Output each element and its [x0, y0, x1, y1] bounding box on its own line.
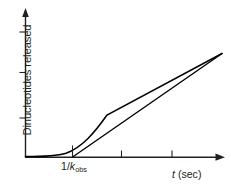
x-axis-arrowhead-icon	[216, 154, 226, 161]
dinucleotide-release-curve	[26, 54, 223, 157]
steady-state-tangent-line	[73, 54, 222, 158]
intercept-annotation: 1/kobs	[61, 160, 87, 172]
plot-canvas	[0, 0, 231, 189]
intercept-numerator: 1/	[61, 160, 70, 172]
y-axis-label: Dinucleotides released	[21, 0, 33, 164]
figure-container: Dinucleotides released t (sec) 1/kobs	[0, 0, 231, 189]
x-axis-label: t (sec)	[172, 168, 201, 180]
x-axis-label-units: (sec)	[175, 168, 201, 180]
intercept-subscript: obs	[75, 165, 87, 174]
